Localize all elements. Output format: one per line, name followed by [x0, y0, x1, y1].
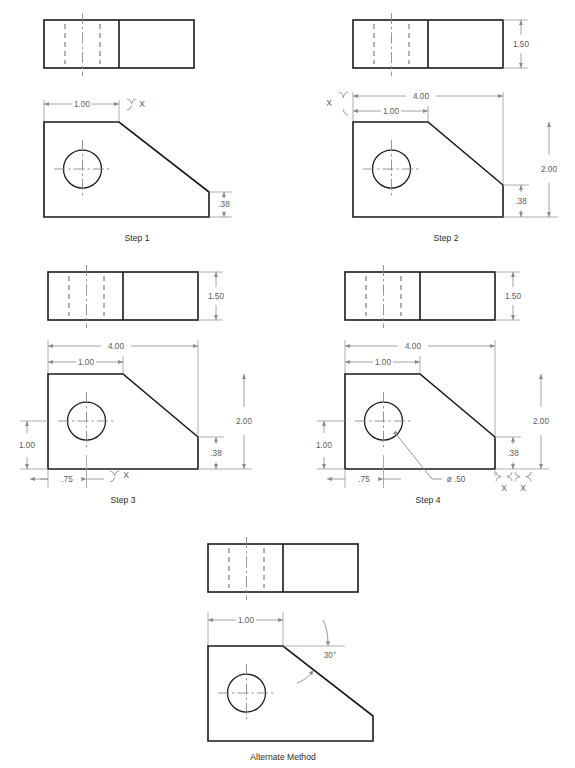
step4-top-view	[345, 265, 495, 328]
dim-label: .38	[218, 200, 230, 209]
x-label: X	[139, 99, 145, 109]
dim-label: 2.00	[541, 165, 557, 174]
dim-label: .38	[515, 197, 527, 206]
step4-dim-4.00: 4.00	[345, 340, 495, 437]
step4-dim-2.00: 2.00	[495, 374, 549, 469]
step3-annotation-x: X	[110, 470, 129, 482]
dim-label: 1.00	[383, 107, 399, 116]
figure-step4: 1.50 4.00 1.00 2.00	[316, 265, 549, 505]
step2-dim-4.00: 4.00	[353, 92, 503, 185]
diameter-label: ø .50	[447, 475, 466, 484]
step3-dim-2.00: 2.00	[198, 374, 252, 469]
figure-caption-step4: Step 4	[416, 495, 441, 505]
step3-top-view	[48, 265, 198, 328]
step4-annotation-diameter: ø .50	[396, 434, 466, 484]
dim-label: 2.00	[236, 417, 252, 426]
step4-dim-1.00-left: 1.00	[316, 421, 345, 469]
x-label: X	[326, 98, 332, 108]
step1-annotation-x: X	[127, 99, 145, 110]
step2-front-view	[353, 122, 503, 217]
x-label: X	[520, 483, 526, 493]
step1-dim-1.00: 1.00	[44, 100, 119, 122]
step3-dim-4.00: 4.00	[48, 340, 198, 437]
dim-label: 1.00	[238, 616, 254, 625]
dim-label: 4.00	[413, 92, 429, 101]
step3-dim-.75: .75	[30, 455, 104, 488]
step2-top-view	[353, 13, 503, 76]
step3-front-view	[48, 374, 198, 469]
dim-label: 1.00	[375, 358, 391, 367]
figure-caption-step2: Step 2	[434, 233, 459, 243]
step2-dim-.38: .38	[503, 185, 529, 217]
x-label: X	[123, 470, 129, 480]
step4-dim-.38: .38	[495, 437, 521, 469]
step1-front-view	[44, 122, 209, 217]
dim-label: 1.00	[316, 441, 332, 450]
dim-label: .75	[61, 475, 73, 484]
dim-label: 1.00	[19, 441, 35, 450]
drawing-sheet: 1.00 X .38 Step 1	[0, 0, 575, 768]
x-label: X	[501, 483, 507, 493]
step3-dim-1.50: 1.50	[198, 272, 224, 320]
angle-label: 30°	[324, 651, 336, 660]
step3-dim-.38: .38	[198, 437, 224, 469]
step1-dim-.38: .38	[209, 192, 232, 217]
step2-dim-1.00: 1.00	[353, 106, 428, 122]
alternate-dim-1.00: 1.00	[208, 612, 283, 646]
technical-drawing-canvas: 1.00 X .38 Step 1	[0, 0, 575, 768]
figure-alternate-method: 1.00 30° Alternate Method	[208, 537, 373, 762]
figure-caption-step1: Step 1	[125, 233, 150, 243]
step3-dim-1.00-top: 1.00	[48, 356, 123, 374]
dim-label: 1.50	[208, 292, 224, 301]
dim-label: 4.00	[405, 342, 421, 351]
figure-caption-step3: Step 3	[111, 495, 136, 505]
step4-front-view	[345, 374, 495, 469]
step4-dim-1.50: 1.50	[495, 272, 521, 320]
step4-annotation-x-2: X	[515, 472, 531, 493]
figure-step1: 1.00 X .38 Step 1	[44, 13, 232, 243]
dim-label: .38	[507, 449, 519, 458]
dim-label: .75	[358, 475, 370, 484]
step4-dim-1.00-top: 1.00	[345, 356, 420, 374]
dim-label: 1.50	[513, 40, 529, 49]
step2-annotation-x: X	[326, 92, 348, 115]
dim-label: 1.00	[74, 100, 90, 109]
dim-label: 4.00	[108, 342, 124, 351]
alternate-annotation-30deg: 30°	[283, 620, 345, 683]
step3-dim-1.00-left: 1.00	[19, 421, 48, 469]
step2-dim-1.50: 1.50	[503, 20, 529, 68]
dim-label: 1.50	[505, 292, 521, 301]
figure-step3: 1.50 4.00 1.00 2.00	[19, 265, 252, 505]
alternate-front-view	[208, 646, 373, 741]
step4-dim-.75: .75	[327, 455, 401, 488]
figure-caption-alternate: Alternate Method	[250, 752, 316, 762]
dim-label: .38	[210, 449, 222, 458]
dim-label: 1.00	[78, 358, 94, 367]
step4-annotation-x-1: X	[495, 469, 512, 493]
step2-dim-2.00: 2.00	[503, 122, 558, 217]
figure-step2: 1.50 4.00 1.00 X	[326, 13, 558, 243]
step1-top-view	[44, 13, 194, 76]
alternate-top-view	[208, 537, 358, 600]
dim-label: 2.00	[533, 417, 549, 426]
